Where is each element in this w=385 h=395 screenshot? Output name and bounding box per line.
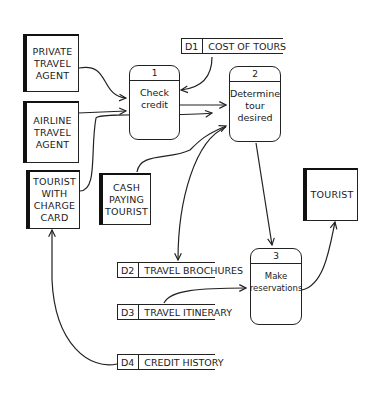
entity-tourist-with-charge-card[interactable]: TOURIST WITH CHARGE CARD xyxy=(26,170,80,229)
process-label: Check credit xyxy=(130,81,179,111)
process-number: 1 xyxy=(130,66,179,81)
entity-private-travel-agent[interactable]: PRIVATE TRAVEL AGENT xyxy=(23,34,79,92)
process-check-credit[interactable]: 1 Check credit xyxy=(129,65,180,140)
process-number: 3 xyxy=(251,249,301,264)
store-name: TRAVEL ITINERARY xyxy=(139,307,232,318)
store-id: D1 xyxy=(182,39,203,53)
process-make-reservations[interactable]: 3 Make reservations xyxy=(250,248,302,325)
entity-cash-paying-tourist[interactable]: CASH PAYING TOURIST xyxy=(99,173,151,225)
store-name: TRAVEL BROCHURES xyxy=(139,265,243,276)
store-name: CREDIT HISTORY xyxy=(139,357,223,368)
store-id: D3 xyxy=(118,305,139,319)
store-id: D2 xyxy=(118,263,139,277)
process-label: Make reservations xyxy=(251,264,301,294)
store-d4-credit-history[interactable]: D4 CREDIT HISTORY xyxy=(117,354,215,370)
process-number: 2 xyxy=(230,67,280,82)
entity-tourist[interactable]: TOURIST xyxy=(303,168,358,221)
store-d2-travel-brochures[interactable]: D2 TRAVEL BROCHURES xyxy=(117,262,215,278)
store-d1-cost-of-tours[interactable]: D1 COST OF TOURS xyxy=(181,38,283,54)
process-determine-tour[interactable]: 2 Determine tour desired xyxy=(229,66,281,142)
store-id: D4 xyxy=(118,355,139,369)
store-d3-travel-itinerary[interactable]: D3 TRAVEL ITINERARY xyxy=(117,304,215,320)
entity-airline-travel-agent[interactable]: AIRLINE TRAVEL AGENT xyxy=(23,101,79,163)
process-label: Determine tour desired xyxy=(230,82,280,124)
store-name: COST OF TOURS xyxy=(203,41,286,52)
